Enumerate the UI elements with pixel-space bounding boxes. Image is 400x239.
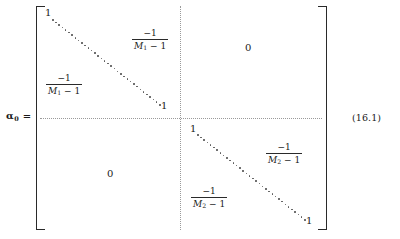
br-diagonal-end-one: 1: [306, 216, 312, 226]
br-upper-denominator: M2 − 1: [266, 153, 302, 165]
equation-number: (16.1): [352, 112, 381, 123]
br-upper-numerator: −1: [266, 142, 302, 153]
br-upper-fraction: −1 M2 − 1: [266, 142, 302, 165]
equation-figure: α0 = 1 −1 M1 − 1 −1 M1 − 1 1 0 0 1 −1 M2…: [0, 0, 400, 239]
br-lower-fraction: −1 M2 − 1: [191, 186, 227, 209]
br-lower-numerator: −1: [191, 186, 227, 197]
br-lower-denominator: M2 − 1: [191, 197, 227, 209]
